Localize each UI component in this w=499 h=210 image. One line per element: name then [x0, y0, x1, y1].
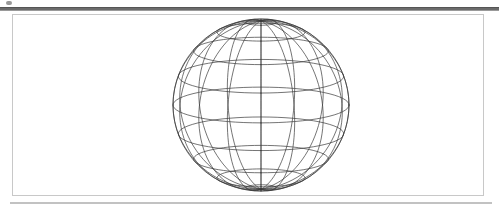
bottom-separator: [10, 202, 492, 204]
sphere-edge: [261, 21, 342, 190]
viewport-panel[interactable]: [12, 14, 484, 196]
sphere-edge: [261, 21, 342, 190]
sphere-meridians: [173, 19, 349, 191]
sphere-edge: [180, 21, 261, 190]
wireframe-sphere-canvas[interactable]: [13, 15, 484, 196]
sphere-wireframe: [173, 19, 349, 191]
sphere-edge: [173, 21, 261, 189]
sphere-edge: [261, 21, 349, 189]
toolbar-separator: [0, 7, 499, 11]
sphere-edge: [180, 21, 261, 190]
toolbar-strip: [0, 0, 499, 7]
menu-dot-icon[interactable]: [6, 1, 12, 5]
